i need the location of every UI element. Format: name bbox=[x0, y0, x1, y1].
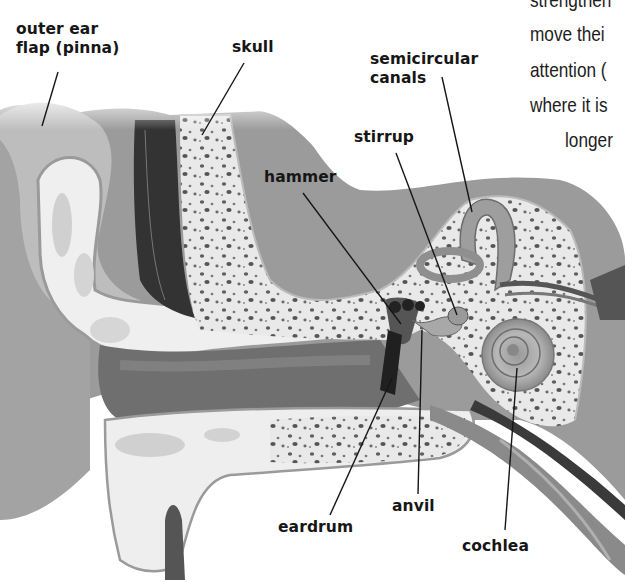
label-eardrum: eardrum bbox=[278, 518, 353, 537]
ear-anatomy-diagram: outer ear flap (pinna) skull semicircula… bbox=[0, 0, 625, 582]
label-semicircular-line2: canals bbox=[370, 69, 478, 88]
label-semicircular-line1: semicircular bbox=[370, 50, 478, 69]
body-text-line-2: move thei bbox=[530, 20, 605, 48]
label-pinna: outer ear flap (pinna) bbox=[16, 20, 119, 58]
label-anvil: anvil bbox=[392, 497, 435, 516]
body-text-line-4: where it is bbox=[530, 91, 608, 119]
label-cochlea: cochlea bbox=[462, 537, 529, 556]
ear-cross-section-illustration bbox=[0, 0, 625, 582]
label-pinna-line2: flap (pinna) bbox=[16, 39, 119, 58]
label-pinna-line1: outer ear bbox=[16, 20, 119, 39]
body-text-line-1: strengthen bbox=[530, 0, 611, 14]
cochlea-shape bbox=[482, 319, 554, 391]
lower-cartilage bbox=[105, 408, 474, 580]
body-text-line-3: attention ( bbox=[530, 56, 607, 84]
label-skull: skull bbox=[232, 38, 274, 57]
label-stirrup: stirrup bbox=[354, 128, 414, 147]
body-text-line-5: longer bbox=[565, 126, 613, 154]
label-hammer: hammer bbox=[264, 168, 337, 187]
label-semicircular-canals: semicircular canals bbox=[370, 50, 478, 88]
